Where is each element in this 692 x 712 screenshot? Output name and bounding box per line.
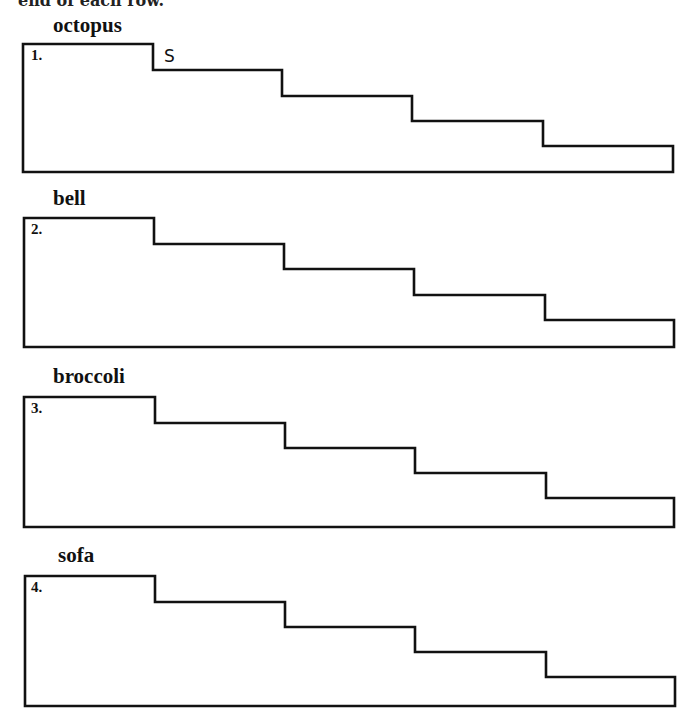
- row-1-staircase: [23, 44, 673, 172]
- row-3-staircase: [24, 397, 674, 527]
- row-2-staircase: [24, 218, 674, 347]
- row-1-step-2-area[interactable]: [153, 44, 282, 70]
- row-4-staircase: [25, 576, 675, 706]
- staircase-worksheet: [0, 0, 692, 712]
